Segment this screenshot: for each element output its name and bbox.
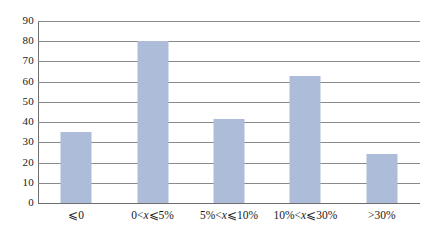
bars-layer	[38, 21, 420, 203]
axis-baseline	[38, 203, 420, 204]
x-axis-category-labels: ⩽00<x⩽5%5%<x⩽10%10%<x⩽30%>30%	[38, 208, 420, 230]
y-tick-label-20: 20	[0, 157, 34, 168]
bar-slot	[114, 21, 190, 203]
y-axis-tick-labels: 0102030405060708090	[0, 0, 34, 239]
plot-area	[38, 21, 420, 203]
x-axis-label: >30%	[337, 208, 427, 222]
y-tick-label-50: 50	[0, 96, 34, 107]
bar	[61, 132, 92, 203]
y-tick-label-60: 60	[0, 76, 34, 87]
bar	[290, 76, 321, 203]
bar	[137, 41, 168, 203]
y-tick-label-10: 10	[0, 177, 34, 188]
y-tick-label-80: 80	[0, 35, 34, 46]
bar	[366, 154, 397, 203]
y-tick-label-40: 40	[0, 116, 34, 127]
bar	[213, 119, 244, 203]
y-tick-label-0: 0	[0, 197, 34, 208]
bar-slot	[267, 21, 343, 203]
y-tick-label-30: 30	[0, 136, 34, 147]
y-tick-label-70: 70	[0, 55, 34, 66]
bar-slot	[38, 21, 114, 203]
y-tick-label-90: 90	[0, 15, 34, 26]
bar-chart-figure: 0102030405060708090 ⩽00<x⩽5%5%<x⩽10%10%<…	[0, 0, 435, 239]
bar-slot	[344, 21, 420, 203]
bar-slot	[191, 21, 267, 203]
